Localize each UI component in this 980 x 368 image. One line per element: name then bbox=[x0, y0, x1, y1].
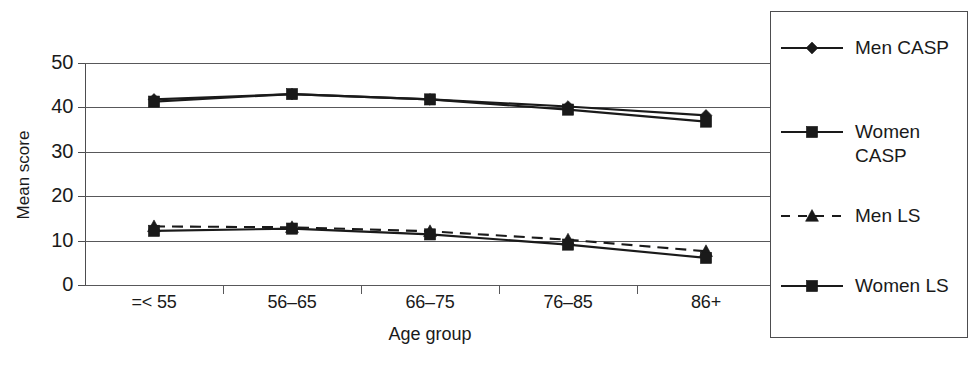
data-point-2 bbox=[424, 94, 435, 105]
series-women-casp bbox=[148, 88, 711, 127]
y-tick-50 bbox=[78, 63, 85, 64]
legend-marker-triangle-icon bbox=[779, 204, 851, 226]
y-tick-10 bbox=[78, 241, 85, 242]
series-plot bbox=[85, 63, 775, 285]
y-tick-label-20: 20 bbox=[31, 185, 73, 205]
y-tick-label-40: 40 bbox=[31, 96, 73, 116]
data-point-0 bbox=[148, 225, 159, 236]
legend-label: Men CASP bbox=[851, 36, 949, 60]
legend-marker-diamond-icon bbox=[779, 36, 851, 58]
data-point-4 bbox=[700, 116, 711, 127]
x-tick-4 bbox=[637, 285, 638, 294]
y-tick-label-50: 50 bbox=[31, 52, 73, 72]
x-category-label-4: 86+ bbox=[646, 292, 766, 313]
x-tick-2 bbox=[361, 285, 362, 294]
y-tick-0 bbox=[78, 285, 85, 286]
legend-item-men-ls[interactable]: Men LS bbox=[779, 204, 920, 228]
y-tick-20 bbox=[78, 196, 85, 197]
x-tick-3 bbox=[499, 285, 500, 294]
legend-item-men-casp[interactable]: Men CASP bbox=[779, 36, 949, 60]
y-tick-label-30: 30 bbox=[31, 141, 73, 161]
x-category-label-3: 76–85 bbox=[508, 292, 628, 313]
legend-item-women-ls[interactable]: Women LS bbox=[779, 274, 949, 298]
chart-figure: Mean score 01020304050 =< 5556–6566–7576… bbox=[0, 0, 980, 368]
legend-label: Women LS bbox=[851, 274, 949, 298]
data-point-4 bbox=[700, 252, 711, 263]
y-tick-label-0: 0 bbox=[31, 274, 73, 294]
x-axis-title: Age group bbox=[0, 324, 860, 345]
y-tick-30 bbox=[78, 152, 85, 153]
plot-area bbox=[85, 63, 775, 285]
gridline-0 bbox=[85, 285, 775, 286]
legend-item-women-casp[interactable]: Women CASP bbox=[779, 120, 920, 168]
y-tick-40 bbox=[78, 107, 85, 108]
legend-label: Women CASP bbox=[851, 120, 920, 168]
data-point-3 bbox=[562, 104, 573, 115]
x-category-label-0: =< 55 bbox=[94, 292, 214, 313]
chart-legend: Men CASPWomen CASPMen LSWomen LS bbox=[770, 11, 968, 338]
legend-marker-square-icon bbox=[779, 120, 851, 142]
data-point-2 bbox=[424, 229, 435, 240]
x-tick-1 bbox=[223, 285, 224, 294]
x-category-label-1: 56–65 bbox=[232, 292, 352, 313]
data-point-1 bbox=[286, 88, 297, 99]
x-category-label-2: 66–75 bbox=[370, 292, 490, 313]
legend-marker-square-icon bbox=[779, 274, 851, 296]
y-tick-label-10: 10 bbox=[31, 230, 73, 250]
data-point-0 bbox=[148, 96, 159, 107]
legend-label: Men LS bbox=[851, 204, 920, 228]
data-point-3 bbox=[562, 239, 573, 250]
data-point-1 bbox=[286, 223, 297, 234]
series-women-ls bbox=[148, 223, 711, 264]
